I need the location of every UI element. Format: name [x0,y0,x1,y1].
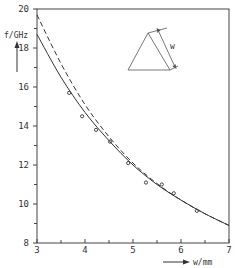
plot-frame [37,9,229,243]
measured-point [68,91,71,94]
dashed-curve [37,15,229,226]
tick-labels: 345678101214161820 [18,4,232,255]
chart: 345678101214161820 f/GHz w/mm w [0,0,235,268]
measured-point [172,192,175,195]
measured-point [127,161,130,164]
x-tick-label: 6 [178,245,183,255]
y-tick-label: 18 [18,43,29,53]
measured-point [81,115,84,118]
data-points [68,91,199,212]
triangle-shape [128,33,170,70]
curves [37,15,229,226]
x-axis-title: w/mm [193,258,212,267]
measured-point [144,181,147,184]
y-tick-label: 16 [18,82,29,92]
y-tick-label: 14 [18,121,29,131]
y-tick-label: 20 [18,4,29,14]
y-axis-title: f/GHz [4,31,28,40]
plot-area-border [37,9,229,243]
y-tick-label: 12 [18,160,29,170]
x-axis-arrow-icon [163,260,190,265]
x-tick-label: 5 [130,245,135,255]
x-tick-label: 4 [82,245,87,255]
x-tick-label: 3 [34,245,39,255]
measured-point [160,183,163,186]
inset-triangle-diagram: w [128,28,178,70]
y-tick-label: 10 [18,199,29,209]
measured-point [94,128,97,131]
axis-ticks [33,9,229,243]
solid-curve [37,34,229,225]
width-label: w [170,42,175,51]
y-tick-label: 8 [24,238,29,248]
x-tick-label: 7 [226,245,231,255]
